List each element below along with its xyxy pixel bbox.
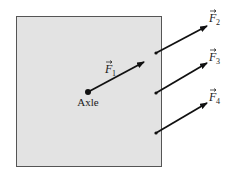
svg-text:3: 3 bbox=[216, 57, 220, 66]
svg-text:1: 1 bbox=[112, 69, 116, 78]
svg-text:2: 2 bbox=[216, 18, 220, 27]
force-arrow-f2 bbox=[156, 26, 207, 53]
force-label-f3: F 3 bbox=[208, 49, 220, 67]
svg-text:4: 4 bbox=[216, 97, 220, 106]
force-label-f2: F 2 bbox=[208, 10, 220, 28]
force-diagram: Axle F 1 F 2 F 3 F 4 bbox=[0, 0, 233, 178]
force-label-f4: F 4 bbox=[208, 89, 220, 107]
force-arrow-f4 bbox=[156, 103, 207, 133]
axle-label: Axle bbox=[77, 96, 99, 108]
force-arrow-f3 bbox=[156, 63, 207, 93]
